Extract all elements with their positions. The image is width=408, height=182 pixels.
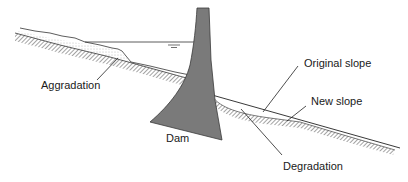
aggradation-deposit	[18, 31, 190, 79]
new-slope-line	[212, 96, 395, 150]
new-slope-label: New slope	[311, 96, 362, 107]
original-slope-leader	[263, 66, 298, 112]
aggradation-label: Aggradation	[41, 80, 100, 91]
degradation-label: Degradation	[283, 161, 343, 172]
new-slope-hatch	[212, 96, 395, 155]
dam-sediment-diagram	[0, 0, 408, 182]
dam-label: Dam	[166, 133, 189, 144]
original-slope-label: Original slope	[304, 58, 371, 69]
original-slope-line	[212, 95, 400, 148]
degradation-leader	[241, 109, 282, 155]
